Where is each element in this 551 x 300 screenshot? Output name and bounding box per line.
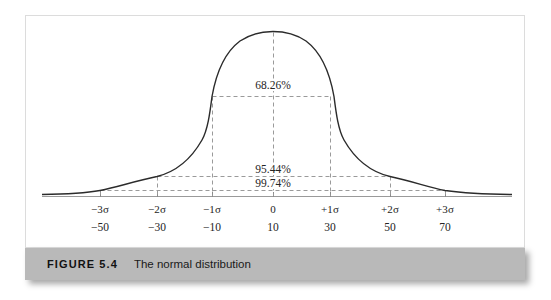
x-tick-sigma-minus1: −1σ <box>203 203 221 215</box>
annotation-99-percent: 99.74% <box>252 177 293 189</box>
annotation-68-percent: 68.26% <box>252 79 293 91</box>
x-tick-sigma-minus2: −2σ <box>148 203 166 215</box>
x-tick-sigma-plus2: +2σ <box>381 203 399 215</box>
annotation-95-percent: 95.44% <box>252 163 293 175</box>
figure-caption-bar: FIGURE 5.4 The normal distribution <box>25 248 525 280</box>
x-tick-value-minus30: −30 <box>148 221 166 233</box>
x-tick-value-minus50: −50 <box>91 221 109 233</box>
x-tick-sigma-minus3: −3σ <box>91 203 109 215</box>
x-tick-value-50: 50 <box>384 221 396 233</box>
x-tick-sigma-zero: 0 <box>270 203 276 215</box>
x-tick-value-minus10: −10 <box>203 221 221 233</box>
figure-number: FIGURE 5.4 <box>47 258 118 270</box>
figure-caption-text: The normal distribution <box>134 258 251 270</box>
x-tick-value-10: 10 <box>267 221 279 233</box>
figure-container: 68.26% 95.44% 99.74% −3σ −2σ −1σ 0 +1σ +… <box>0 0 551 300</box>
x-tick-sigma-plus3: +3σ <box>436 203 454 215</box>
x-tick-sigma-plus1: +1σ <box>321 203 339 215</box>
x-tick-value-70: 70 <box>439 221 451 233</box>
x-tick-value-30: 30 <box>324 221 336 233</box>
